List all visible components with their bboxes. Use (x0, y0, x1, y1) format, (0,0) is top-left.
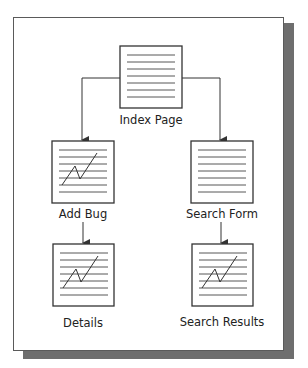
node-details (53, 244, 114, 306)
label-details: Details (23, 316, 143, 330)
node-search-results (192, 244, 253, 306)
site-map-diagram (0, 0, 308, 368)
label-search-form: Search Form (162, 207, 282, 221)
node-index-page (120, 46, 182, 108)
edge-index-to-add-bug (82, 78, 120, 140)
label-index-page: Index Page (91, 113, 211, 127)
label-add-bug: Add Bug (23, 207, 143, 221)
node-add-bug (52, 141, 114, 203)
label-search-results: Search Results (162, 315, 282, 329)
edge-index-to-search-form (182, 78, 220, 140)
node-search-form (191, 141, 253, 203)
